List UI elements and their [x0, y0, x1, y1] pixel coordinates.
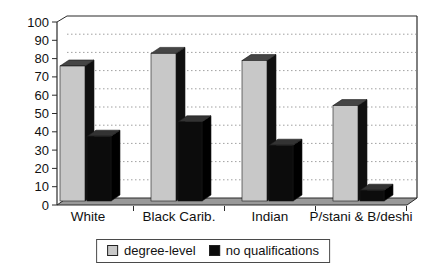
chart-svg: 0102030405060708090100WhiteBlack Carib.I… [0, 0, 426, 270]
y-tick-label: 60 [35, 88, 49, 103]
y-tick-label: 0 [42, 198, 49, 213]
bar-side-1-2 [293, 139, 302, 201]
degree-level-swatch [107, 245, 118, 256]
chart-legend: degree-level no qualifications [96, 239, 330, 263]
bar-chart: 0102030405060708090100WhiteBlack Carib.I… [0, 0, 426, 270]
legend-item-degree-level: degree-level [107, 243, 196, 258]
category-label: P/stani & B/deshi [310, 209, 413, 224]
bar-degree-level-0 [60, 66, 85, 201]
y-tick-label: 50 [35, 106, 49, 121]
y-tick-label: 100 [27, 15, 49, 30]
category-label: Indian [252, 209, 289, 224]
y-tick-label: 10 [35, 179, 49, 194]
y-tick-label: 20 [35, 161, 49, 176]
y-tick-label: 90 [35, 33, 49, 48]
y-tick-label: 40 [35, 124, 49, 139]
bar-degree-level-1 [151, 53, 176, 201]
category-label: White [71, 209, 106, 224]
y-tick-label: 80 [35, 51, 49, 66]
bar-no-qualifications-0 [87, 136, 111, 201]
legend-label-degree-level: degree-level [124, 243, 196, 258]
bar-degree-level-2 [242, 61, 267, 201]
bar-no-qualifications-1 [178, 122, 202, 201]
y-tick-label: 70 [35, 69, 49, 84]
legend-item-no-qualifications: no qualifications [209, 243, 319, 258]
y-tick-label: 30 [35, 143, 49, 158]
bar-side-0-3 [358, 100, 367, 201]
bar-side-1-1 [202, 116, 211, 201]
category-label: Black Carib. [143, 209, 216, 224]
bar-no-qualifications-2 [269, 145, 293, 201]
bar-no-qualifications-3 [360, 190, 384, 201]
bar-degree-level-3 [333, 106, 358, 201]
wall-top-diagonal [57, 16, 67, 22]
no-qualifications-swatch [209, 245, 220, 256]
legend-label-no-qualifications: no qualifications [226, 243, 319, 258]
bar-side-1-0 [111, 130, 120, 201]
